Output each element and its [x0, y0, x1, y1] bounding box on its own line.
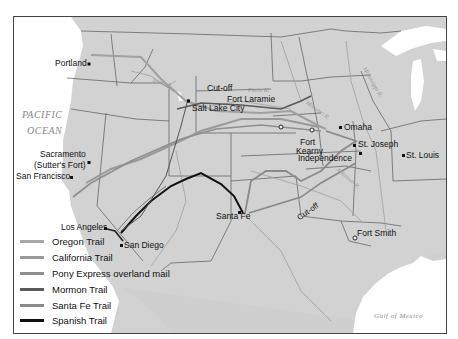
legend-item-california-trail: California Trail [18, 250, 170, 266]
ocean-label: OCEAN [27, 125, 62, 136]
city-omaha: Omaha [344, 123, 372, 132]
legend-item-santa-fe-trail: Santa Fe Trail [18, 297, 170, 313]
oregon-trail-swatch [20, 240, 44, 243]
city-st-louis: St. Louis [406, 151, 439, 160]
legend-label: Pony Express overland mail [52, 268, 170, 279]
city-sacramento-fort: (Sutter's Fort) [34, 161, 86, 170]
city-los-angeles: Los Angeles [61, 223, 107, 232]
mormon-trail-swatch [20, 288, 44, 291]
gulf-of-mexico-label: Gulf of Mexico [374, 312, 423, 320]
city-san-francisco: San Francisco [16, 172, 70, 181]
legend: Oregon Trail California Trail Pony Expre… [18, 234, 170, 329]
pony-express-swatch [20, 272, 44, 275]
legend-item-mormon-trail: Mormon Trail [18, 281, 170, 297]
california-trail-swatch [20, 256, 44, 259]
legend-item-spanish-trail: Spanish Trail [18, 313, 170, 329]
city-fort-laramie: Fort Laramie [227, 95, 275, 104]
city-salt-lake-city: Salt Lake City [192, 104, 244, 113]
legend-label: Mormon Trail [52, 284, 107, 295]
cutoff-north-label: Cut-off [207, 84, 232, 93]
legend-label: Oregon Trail [52, 236, 104, 247]
city-independence: Independence [298, 154, 352, 163]
pacific-label: PACIFIC [22, 109, 63, 120]
legend-item-oregon-trail: Oregon Trail [18, 234, 170, 250]
city-st-joseph: St. Joseph [358, 140, 398, 149]
spanish-trail-swatch [20, 319, 44, 322]
legend-item-pony-express: Pony Express overland mail [18, 266, 170, 282]
city-santa-fe: Santa Fe [216, 212, 251, 221]
city-portland: Portland [55, 59, 87, 68]
city-fort-smith: Fort Smith [357, 229, 396, 238]
platte-river-label: Platte R. [248, 87, 269, 93]
legend-label: Spanish Trail [52, 315, 107, 326]
legend-label: Santa Fe Trail [52, 300, 111, 311]
legend-label: California Trail [52, 252, 113, 263]
city-sacramento: Sacramento [40, 150, 86, 159]
santa-fe-trail-swatch [20, 304, 44, 307]
